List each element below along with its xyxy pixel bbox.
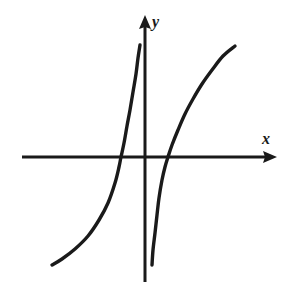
y-axis-label: y <box>152 14 159 30</box>
plot-canvas <box>0 0 290 285</box>
x-axis-label: x <box>262 131 270 147</box>
graph-figure: x y <box>0 0 290 285</box>
